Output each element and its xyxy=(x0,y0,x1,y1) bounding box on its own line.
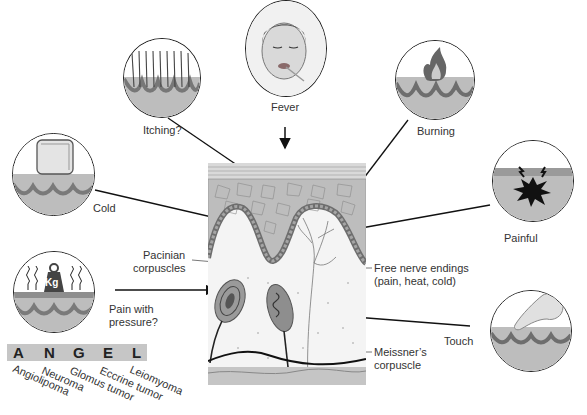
skin-cross-section xyxy=(208,163,366,385)
cold-label: Cold xyxy=(93,202,116,215)
burst-on-skin-icon xyxy=(493,141,573,221)
itching-circle xyxy=(123,38,201,118)
pressure-circle: Kg xyxy=(13,251,95,333)
fever-circle xyxy=(245,0,327,97)
angel-letter-e: E xyxy=(103,344,113,361)
cold-circle xyxy=(12,133,95,216)
pressure-label-line1: Pain with xyxy=(109,303,154,316)
painful-circle xyxy=(492,140,574,222)
burning-label: Burning xyxy=(417,125,455,138)
pressure-label-line2: pressure? xyxy=(109,316,158,329)
weight-on-skin-icon xyxy=(14,252,94,332)
meissner-label-line2: corpuscle xyxy=(374,359,421,372)
free-nerve-label-line2: (pain, heat, cold) xyxy=(374,275,456,288)
angel-mnemonic-bar: A N G E L xyxy=(7,344,147,361)
painful-label: Painful xyxy=(504,232,538,245)
pacinian-label-line2: corpuscles xyxy=(133,262,186,275)
face-icon xyxy=(246,1,326,96)
itching-label: Itching? xyxy=(143,124,182,137)
fever-label: Fever xyxy=(271,101,299,114)
weight-text: Kg xyxy=(45,277,58,288)
free-nerve-label-line1: Free nerve endings xyxy=(374,262,469,275)
pacinian-label-line1: Pacinian xyxy=(143,249,185,262)
angel-letter-g: G xyxy=(73,344,85,361)
touch-label: Touch xyxy=(444,335,473,348)
angel-letter-a: A xyxy=(13,344,24,361)
angel-letter-l: L xyxy=(132,344,141,361)
burning-circle xyxy=(395,40,475,120)
angel-letter-n: N xyxy=(44,344,55,361)
hairs-on-skin-icon xyxy=(124,39,200,117)
finger-on-skin-icon xyxy=(491,291,571,371)
ice-cube-on-skin-icon xyxy=(13,134,94,215)
touch-circle xyxy=(490,290,572,372)
flame-on-skin-icon xyxy=(396,41,474,119)
meissner-label-line1: Meissner’s xyxy=(374,346,427,359)
